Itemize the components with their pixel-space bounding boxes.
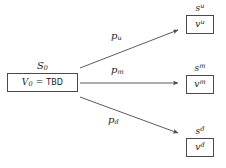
target-value-box-mid: vm bbox=[186, 75, 214, 94]
target-state-label-up: su bbox=[196, 4, 205, 13]
target-value-up: vu bbox=[195, 20, 204, 29]
trinomial-tree-diagram: S0 V0 = TBD pu pm pd su vu sm vm sd vd bbox=[0, 0, 226, 168]
target-state-label-mid: sm bbox=[195, 64, 206, 73]
arrow-up bbox=[80, 30, 178, 68]
source-node-label: S0 bbox=[37, 61, 48, 71]
target-node-up: su vu bbox=[186, 4, 214, 34]
source-value-expression: V0 = TBD bbox=[22, 78, 63, 87]
source-value-box: V0 = TBD bbox=[7, 73, 78, 92]
target-node-mid: sm vm bbox=[186, 64, 214, 94]
source-node: S0 V0 = TBD bbox=[7, 61, 78, 92]
target-node-down: sd vd bbox=[186, 127, 214, 157]
target-value-mid: vm bbox=[194, 80, 205, 89]
edge-label-up: pu bbox=[111, 30, 122, 41]
target-value-box-down: vd bbox=[186, 138, 214, 157]
target-value-box-up: vu bbox=[186, 15, 214, 34]
target-state-label-down: sd bbox=[196, 127, 205, 136]
target-value-down: vd bbox=[195, 143, 204, 152]
edge-label-mid: pm bbox=[111, 64, 124, 75]
edge-label-down: pd bbox=[108, 114, 119, 125]
arrow-down bbox=[80, 97, 178, 133]
